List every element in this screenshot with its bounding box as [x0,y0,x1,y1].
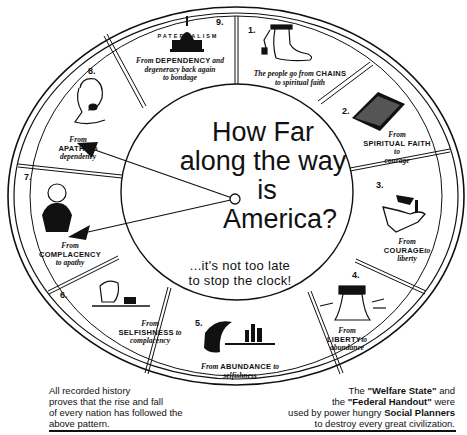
center-subtitle: ...it's not too late to stop the clock! [170,258,310,288]
title-line: is [168,176,358,205]
title-line: How Far [168,118,358,147]
title-line: along the way [168,147,358,176]
liberty-bell-icon [320,286,386,320]
segment-8-number: 8. [88,66,96,76]
cornucopia-city-icon [204,321,275,352]
segment-7-caption: From COMPLACENCY to apathy [28,242,112,268]
segment-1-number: 1. [248,25,256,35]
segment-9-caption: From DEPENDENCY and degeneracy back agai… [120,57,240,83]
segment-4-number: 4. [352,270,360,280]
segment-8-caption: From APATHY to dependency [40,136,116,162]
segment-4-caption: From LIBERTYto abundance [312,327,382,353]
bible-icon [352,92,405,131]
clock-poster: 9. PATERNALISM From DEPENDENCY and degen… [0,0,467,435]
smug-man-icon [42,184,72,232]
chained-foot-icon [262,25,312,61]
segment-6-caption: From SELFISHNESS to complacency [100,320,200,346]
grasping-hand-icon [92,281,150,306]
yawning-man-icon [75,79,105,124]
segment-number: 9. [216,17,224,27]
segment-6-number: 6. [60,290,68,300]
segment-2-caption: From SPIRITUAL FAITH to courage [352,131,442,166]
segment-7-number: 7. [24,172,32,182]
segment-5-caption: From ABUNDANCE to selfishness [180,363,300,380]
paternalism-label: PATERNALISM [154,33,222,39]
segment-2-number: 2. [342,106,350,116]
footer-rule [49,430,456,432]
title-line: America? [168,205,358,234]
segment-3-number: 3. [376,180,384,190]
footer-left-text: All recorded history proves that the ris… [49,385,183,429]
horse-rider-icon [383,195,425,232]
footer-right-text: The "Welfare State" and the "Federal Han… [288,385,455,429]
segment-1-caption: The people go from CHAINS to spiritual f… [240,70,360,87]
segment-3-caption: From COURAGEto liberty [372,238,442,264]
center-title: How Far along the way is America? [168,118,358,234]
